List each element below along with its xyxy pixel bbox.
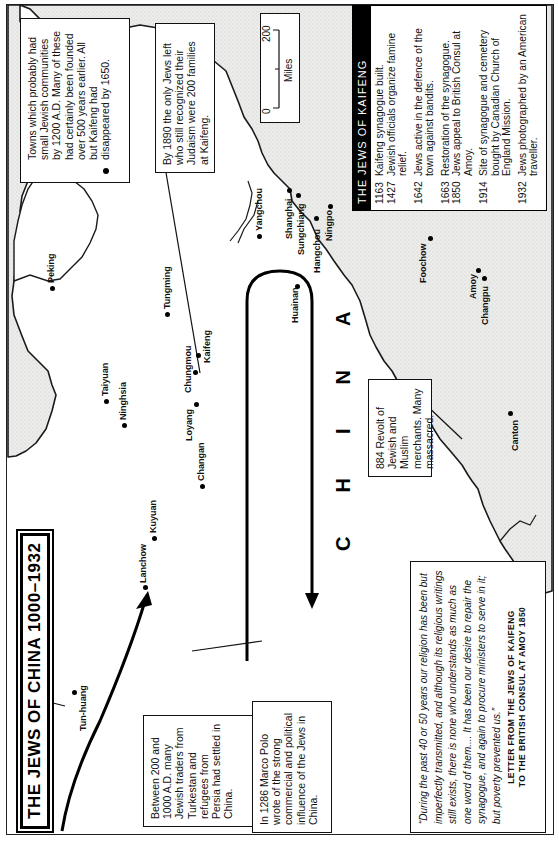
note-884-revolt: 884 Revolt of Jewish and Muslim merchant… — [368, 379, 432, 477]
kaifeng-event: 1163Kaifeng synagogue built. — [374, 12, 386, 204]
kaifeng-event: 1663Restoration of the synagogue. — [440, 12, 452, 204]
city-dot-changan — [200, 484, 205, 489]
event-year: 1427 — [386, 176, 409, 204]
city-label-shanghai[interactable]: Shanghai — [284, 198, 294, 239]
quote-source-line-1: LETTER FROM THE JEWS OF KAIFENG — [506, 570, 517, 824]
event-text: Jews photographed by an American travell… — [517, 12, 540, 176]
scale-unit: Miles — [283, 59, 294, 82]
city-label-amoy[interactable]: Amoy — [468, 274, 478, 299]
event-year: 1932 — [517, 176, 540, 204]
city-dot-foochow — [428, 236, 433, 241]
city-dot-changpu — [482, 276, 487, 281]
city-label-changan[interactable]: Changan — [196, 442, 206, 481]
city-dot-kuyuan — [152, 536, 157, 541]
city-dot-tun-huang — [72, 690, 77, 695]
legend-box: Towns which probably had small Jewish co… — [20, 18, 130, 183]
city-label-taiyuan[interactable]: Taiyuan — [100, 363, 110, 396]
quote-box: “During the past 40 or 50 years our reli… — [410, 561, 546, 833]
city-dot-hangchou — [314, 216, 319, 221]
city-dot-canton — [508, 411, 513, 416]
kaifeng-event: 1850Jews appeal to British Consul at Amo… — [451, 12, 474, 204]
kaifeng-event: 1932Jews photographed by an American tra… — [517, 12, 540, 204]
city-dot-taiyuan — [104, 399, 109, 404]
event-text: Jews appeal to British Consul at Amoy. — [451, 12, 474, 176]
event-text: Jews active in the defence of the town a… — [413, 12, 436, 176]
event-text: Site of synagogue and cemetery bought by… — [478, 12, 513, 176]
city-dot-lanchow — [143, 585, 148, 590]
city-dot-kaifeng — [196, 353, 201, 358]
city-label-yangchou[interactable]: Yangchou — [254, 188, 264, 231]
city-label-hangchou[interactable]: Hangchou — [312, 229, 322, 273]
city-dot-peking — [50, 286, 55, 291]
city-label-foochow[interactable]: Foochow — [418, 244, 428, 284]
kaifeng-events: 1163Kaifeng synagogue built. 1427Jewish … — [371, 6, 543, 210]
event-year: 1850 — [451, 176, 474, 204]
kaifeng-event: 1914Site of synagogue and cemetery bough… — [478, 12, 513, 204]
city-label-ningpo[interactable]: Ningpo — [324, 210, 334, 241]
event-text: Jewish officials organize famine relief. — [386, 12, 409, 176]
scale-end: 200 — [261, 25, 272, 42]
city-dot-tungming — [165, 312, 170, 317]
scale-bar: 0 200 Miles — [260, 13, 300, 123]
city-label-kaifeng[interactable]: Kaifeng — [202, 330, 212, 363]
kaifeng-event: 1427Jewish officials organize famine rel… — [386, 12, 409, 204]
map-canvas: THE JEWS OF CHINA 1000–1932 CHINA Betwee… — [0, 0, 559, 841]
city-dot-shanghai — [287, 188, 292, 193]
city-label-canton[interactable]: Canton — [510, 420, 520, 451]
arrowhead-lanchow — [136, 591, 152, 609]
quote-source-line-2: TO THE BRITISH CONSUL AT AMOY 1850 — [517, 570, 528, 824]
city-label-sungchiang[interactable]: Sungchiang — [296, 204, 306, 256]
arrowhead-marco-polo — [305, 593, 319, 609]
scale-start: 0 — [261, 108, 272, 114]
event-year: 1914 — [478, 176, 513, 204]
quote-text: “During the past 40 or 50 years our reli… — [417, 570, 504, 824]
event-year: 1163 — [374, 176, 386, 204]
city-dot-ninghsia — [122, 423, 127, 428]
kaifeng-panel-heading: THE JEWS OF KAIFENG — [353, 6, 371, 210]
dot-icon — [103, 168, 109, 174]
kaifeng-panel: THE JEWS OF KAIFENG 1163Kaifeng synagogu… — [352, 5, 547, 211]
city-label-peking[interactable]: Peking — [46, 253, 56, 283]
city-dot-amoy — [476, 268, 481, 273]
city-label-chungmou[interactable]: Chungmou — [183, 346, 193, 394]
event-year: 1642 — [413, 176, 436, 204]
kaifeng-event: 1642Jews active in the defence of the to… — [413, 12, 436, 204]
map-title-text: THE JEWS OF CHINA 1000–1932 — [25, 543, 44, 819]
city-dot-sungchiang — [296, 193, 301, 198]
city-label-tungming[interactable]: Tungming — [162, 266, 172, 309]
city-label-lanchow[interactable]: Lanchow — [138, 544, 148, 583]
country-label-china: CHINA — [332, 268, 355, 551]
note-1286-marco-polo: In 1286 Marco Polo wrote of the strong c… — [252, 701, 332, 833]
legend-text: Towns which probably had small Jewish co… — [26, 31, 111, 160]
city-dot-ningpo — [328, 204, 333, 209]
event-text: Kaifeng synagogue built. — [374, 64, 386, 176]
map-title: THE JEWS OF CHINA 1000–1932 — [20, 533, 50, 829]
city-label-loyang[interactable]: Loyang — [184, 409, 194, 441]
event-year: 1663 — [440, 176, 452, 204]
city-dot-loyang — [194, 402, 199, 407]
city-label-kuyuan[interactable]: Kuyuan — [148, 500, 158, 533]
city-dot-chungmou — [193, 370, 198, 375]
event-text: Restoration of the synagogue. — [440, 40, 452, 176]
city-label-huainan[interactable]: Huainan — [290, 287, 300, 323]
note-1890: By 1890 the only Jews left who still rec… — [155, 23, 215, 173]
city-dot-yangchou — [257, 234, 262, 239]
city-label-ninghsia[interactable]: Ninghsia — [118, 382, 128, 420]
city-label-tun-huang[interactable]: Tun-huang — [78, 685, 88, 731]
city-label-changpu[interactable]: Changpu — [480, 286, 490, 325]
